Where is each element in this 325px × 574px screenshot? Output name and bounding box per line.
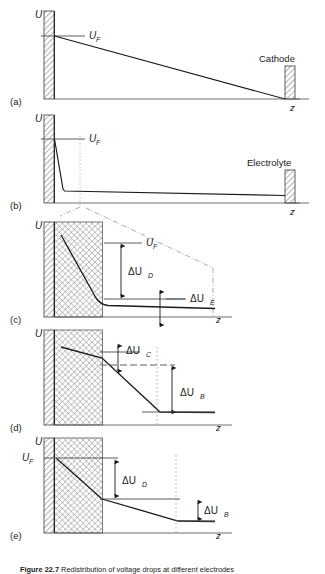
deltaUB-label-e-main: ΔU [204, 505, 218, 516]
fermi-label-b: U F [89, 133, 101, 146]
panel-tag-c: (c) [10, 314, 21, 325]
magnify-guide-left [60, 207, 80, 216]
double-layer-region-d [55, 330, 103, 425]
deltaUD-label-c-main: ΔU [128, 266, 142, 277]
potential-curve-a [55, 36, 286, 99]
electrode-block-c [44, 222, 54, 317]
deltaUD-label-e-sub: D [142, 481, 147, 488]
u-axis-label-b: U [35, 113, 43, 124]
deltaUB-label-d: ΔU B [180, 387, 205, 400]
deltaUD-label-c: ΔU D [128, 266, 153, 279]
panel-e [44, 438, 232, 533]
deltaUB-label-d-main: ΔU [180, 387, 194, 398]
deltaUB-label-e-sub: B [224, 511, 229, 518]
u-axis-label-a: U [35, 9, 43, 20]
cathode-label: Cathode [259, 53, 295, 64]
fermi-label-e-sub: F [29, 458, 34, 465]
u-axis-label-d: U [35, 328, 43, 339]
electrolyte-label: Electrolyte [247, 157, 291, 168]
deltaUB-label-e: ΔU B [204, 505, 229, 518]
deltaUC-label-d: ΔU C [126, 345, 152, 358]
figure-caption: Figure 22.7 Redistribution of voltage dr… [20, 566, 320, 574]
double-layer-region-e [55, 438, 103, 533]
z-axis-label-b: z [289, 206, 295, 217]
deltaUB-label-d-sub: B [200, 393, 205, 400]
z-axis-label-d: z [215, 422, 221, 433]
deltaUD-label-e-main: ΔU [122, 475, 136, 486]
deltaUC-label-d-main: ΔU [126, 345, 140, 356]
deltaUE-label-c-main: ΔU [190, 293, 204, 304]
fermi-label-a-sub: F [96, 36, 101, 43]
deltaUD-label-e: ΔU D [122, 475, 147, 488]
deltaUE-label-c-sub: E [210, 299, 215, 306]
u-axis-label-c: U [35, 220, 43, 231]
anode-block-a [44, 11, 54, 99]
figure-caption-number: Figure 22.7 [20, 566, 59, 574]
z-axis-label-c: z [215, 314, 221, 325]
fermi-label-e: U F [22, 452, 34, 465]
deltaUD-label-c-sub: D [148, 272, 153, 279]
electrode-block-e [44, 438, 54, 533]
figure-caption-text: Redistribution of voltage drops at diffe… [61, 566, 234, 574]
electrode-block-d [44, 330, 54, 425]
fermi-label-b-sub: F [96, 139, 101, 146]
panel-tag-e: (e) [10, 530, 22, 541]
panel-tag-d: (d) [10, 422, 22, 433]
cathode-block-a [285, 66, 295, 99]
electrolyte-block-b [285, 170, 295, 203]
fermi-label-c: U F [146, 237, 158, 250]
deltaUE-label-c: ΔU E [190, 293, 215, 306]
fermi-label-c-sub: F [153, 243, 158, 250]
panel-tag-a: (a) [10, 96, 22, 107]
z-axis-label-e: z [215, 530, 221, 541]
fermi-label-a: U F [89, 30, 101, 43]
z-axis-label-a: z [289, 102, 295, 113]
anode-block-b [44, 115, 54, 203]
panel-tag-b: (b) [10, 200, 22, 211]
u-axis-label-e: U [35, 436, 43, 447]
deltaUC-label-d-sub: C [146, 351, 152, 358]
